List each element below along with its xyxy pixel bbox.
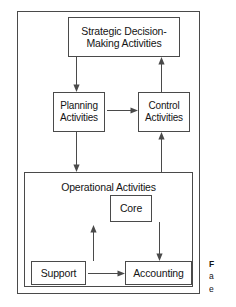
node-support-label: Support xyxy=(39,267,79,279)
arrow-planning-to-control xyxy=(107,106,138,115)
node-accounting: Accounting xyxy=(125,261,192,285)
node-support: Support xyxy=(31,261,86,285)
arrow-planning-to-operational xyxy=(72,132,81,172)
arrow-control-to-strategic xyxy=(157,57,166,92)
node-control-activities: Control Activities xyxy=(138,92,190,132)
figure-caption-line-2: a xyxy=(209,270,236,282)
node-core-label: Core xyxy=(118,202,144,214)
arrow-operational-to-control xyxy=(157,132,166,172)
arrow-support-to-accounting xyxy=(88,269,125,278)
figure-caption-line-3: e xyxy=(209,283,236,295)
figure-caption: F a e xyxy=(209,258,236,295)
node-strategic-decision-making: Strategic Decision- Making Activities xyxy=(68,17,180,57)
arrow-core-to-accounting xyxy=(155,222,164,261)
node-planning-label: Planning Activities xyxy=(58,100,100,124)
node-strategic-label: Strategic Decision- Making Activities xyxy=(79,25,168,50)
group-operational-label: Operational Activities xyxy=(25,181,192,193)
arrow-support-to-core xyxy=(89,225,98,261)
figure-diagram: Strategic Decision- Making Activities Pl… xyxy=(0,0,236,307)
figure-caption-line-1: F xyxy=(209,258,236,270)
node-control-label: Control Activities xyxy=(143,100,185,124)
node-accounting-label: Accounting xyxy=(131,267,185,279)
arrow-strategic-to-planning xyxy=(72,57,81,92)
node-core: Core xyxy=(110,195,152,222)
node-planning-activities: Planning Activities xyxy=(53,92,105,132)
